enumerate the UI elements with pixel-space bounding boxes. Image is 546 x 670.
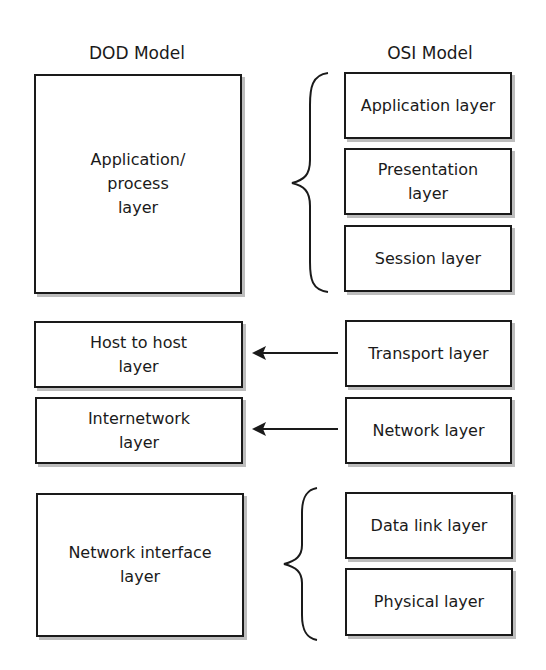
arrow-network-to-internetwork-icon [252, 422, 338, 436]
connectors [0, 0, 546, 670]
brace-lower-icon [284, 488, 317, 640]
arrow-transport-to-host-icon [252, 346, 338, 360]
brace-upper-icon [292, 73, 328, 292]
